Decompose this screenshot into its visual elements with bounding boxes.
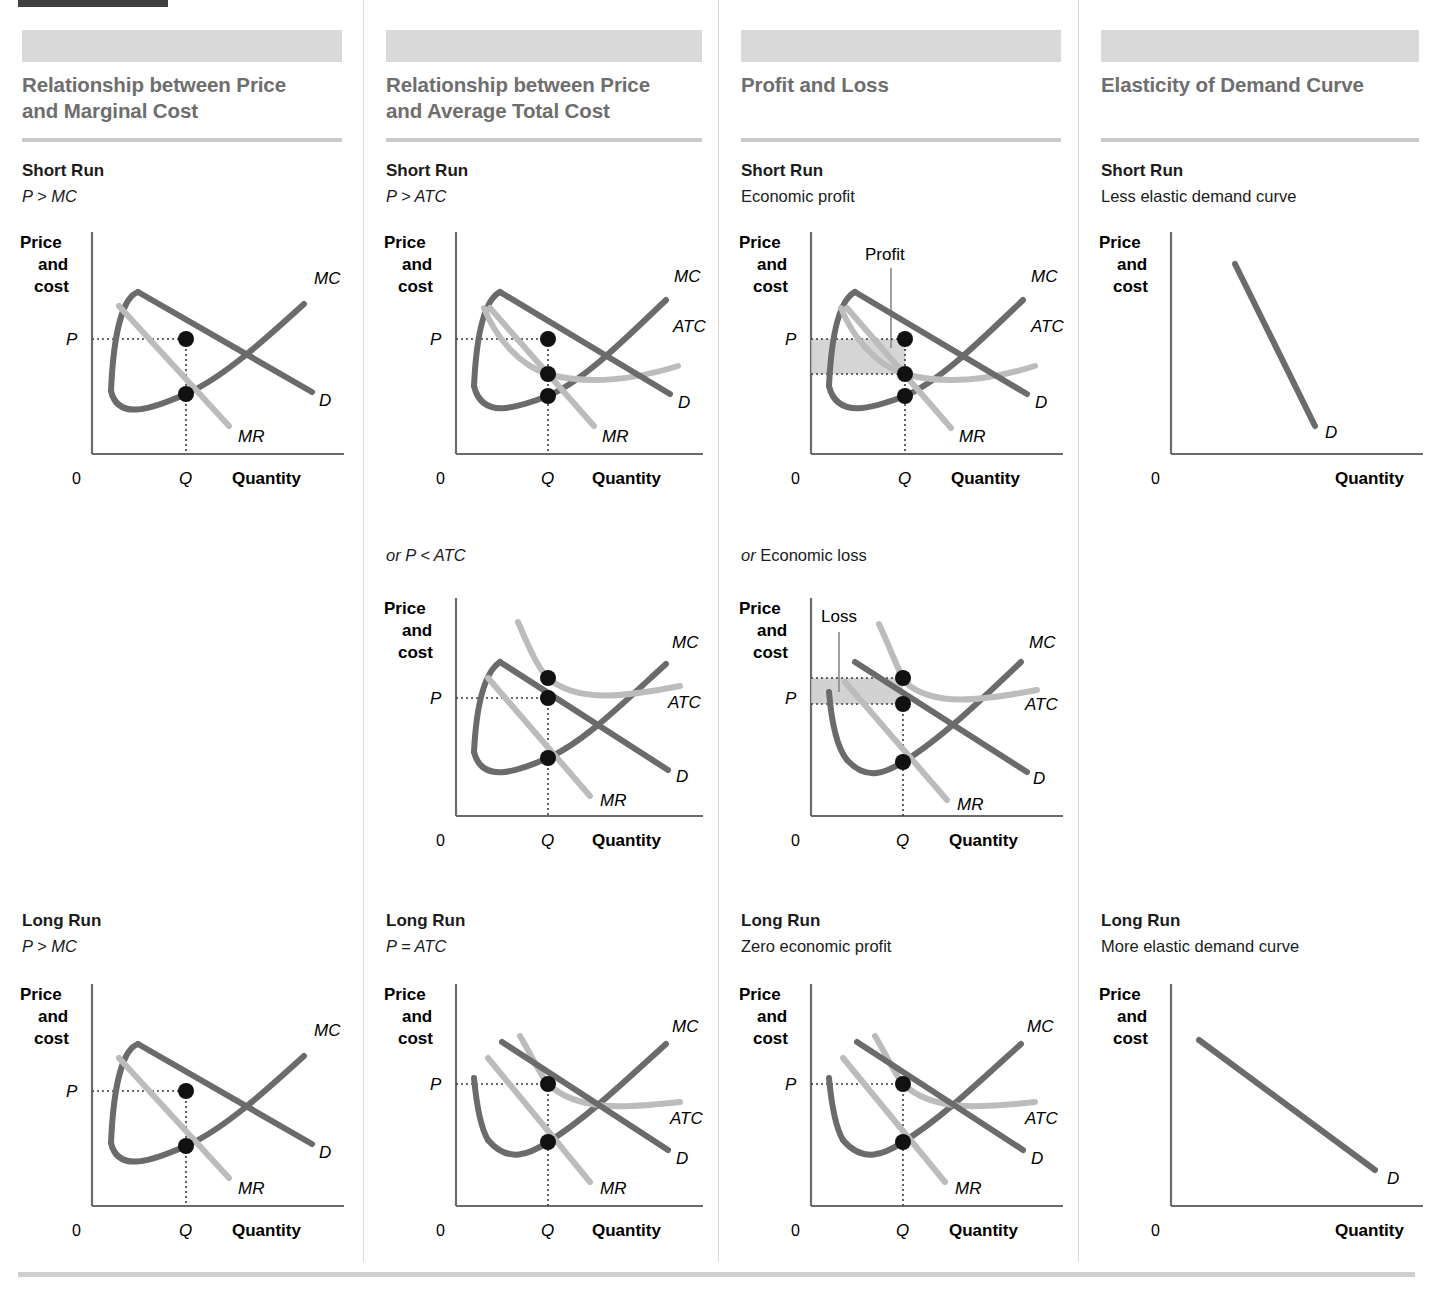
equilibrium-dot-price (178, 331, 194, 347)
equilibrium-dot-price (540, 331, 556, 347)
d-label: D (1387, 1169, 1399, 1188)
axis-ylabel-line2: and (1117, 1007, 1147, 1026)
chart-sr-atc-below: Price and cost P 0 Q Quantity MC (378, 592, 713, 857)
axis-ylabel-line3: cost (398, 643, 433, 662)
equilibrium-dot-price (895, 696, 911, 712)
axis-ylabel-line2: and (1117, 255, 1147, 274)
mc-curve (474, 300, 666, 408)
mc-label: MC (672, 633, 699, 652)
d-label: D (319, 391, 331, 410)
equilibrium-dot-price-atc (895, 1076, 911, 1092)
axis-ylabel-line2: and (757, 1007, 787, 1026)
mr-label: MR (602, 427, 628, 446)
figure-grid: Relationship between Priceand Marginal C… (0, 0, 1433, 1295)
run-title: Short Run (22, 160, 104, 183)
quantity-tick-label: Q (179, 469, 192, 488)
block-long-run: Long Run P > MC (22, 910, 101, 959)
run-note: P > MC (22, 935, 101, 959)
atc-label: ATC (667, 693, 701, 712)
chart-svg: Price and cost 0 Quantity D (1093, 978, 1433, 1248)
equilibrium-dot-price (178, 1083, 194, 1099)
column-title: Elasticity of Demand Curve (1101, 72, 1411, 98)
equilibrium-dot-mrmc (895, 1134, 911, 1150)
equilibrium-dot-atc (540, 366, 556, 382)
loss-annotation-label: Loss (821, 607, 857, 626)
mc-curve (111, 1056, 304, 1162)
mr-label: MR (955, 1179, 981, 1198)
d-label: D (1035, 393, 1047, 412)
demand-curve (138, 292, 312, 392)
axis-ylabel-line1: Price (384, 985, 426, 1004)
equilibrium-dot-price (540, 690, 556, 706)
atc-label: ATC (1030, 317, 1064, 336)
axis-ylabel-line3: cost (398, 1029, 433, 1048)
equilibrium-dot-atc (540, 670, 556, 686)
run-title: Short Run (386, 160, 468, 183)
origin-label: 0 (72, 1222, 81, 1239)
column-price-average-total-cost: Relationship between Priceand Average To… (363, 0, 718, 1262)
mr-label: MR (238, 427, 264, 446)
atc-label: ATC (672, 317, 706, 336)
equilibrium-dot-price (897, 331, 913, 347)
origin-label: 0 (791, 470, 800, 487)
atc-label: ATC (669, 1109, 703, 1128)
run-note: Zero economic profit (741, 935, 891, 959)
chart-svg: Price and cost P 0 Q Quantity MC ATC (733, 978, 1073, 1248)
equilibrium-dot-mrmc (178, 1138, 194, 1154)
equilibrium-dot-mrmc (540, 1134, 556, 1150)
axis-ylabel-line2: and (402, 621, 432, 640)
axis-xlabel: Quantity (232, 469, 301, 488)
chart-svg: Price and cost P 0 Q Quantity Loss (733, 592, 1073, 857)
d-label: D (676, 767, 688, 786)
origin-label: 0 (791, 1222, 800, 1239)
chart-svg: Price and cost P 0 Q Quantity Profit (733, 226, 1073, 496)
quantity-tick-label: Q (541, 1221, 554, 1240)
origin-label: 0 (791, 832, 800, 849)
run-note: Economic profit (741, 185, 855, 209)
or-label: or (386, 546, 401, 564)
axis-ylabel-line1: Price (384, 233, 426, 252)
price-tick-label: P (66, 330, 78, 349)
mc-label: MC (672, 1017, 699, 1036)
axis-ylabel-line1: Price (1099, 985, 1141, 1004)
axis-ylabel-line2: and (402, 255, 432, 274)
mc-curve-left (829, 1078, 843, 1140)
axis-ylabel-line1: Price (20, 233, 62, 252)
price-tick-label: P (430, 1075, 442, 1094)
d-label: D (319, 1143, 331, 1162)
run-title: Short Run (741, 160, 855, 183)
axis-ylabel-line3: cost (34, 277, 69, 296)
axis-xlabel: Quantity (1335, 469, 1404, 488)
equilibrium-dot-atc (897, 366, 913, 382)
column-header-rule (386, 138, 702, 142)
demand-curve (502, 1042, 668, 1150)
mc-curve (474, 664, 666, 772)
run-title: Long Run (1101, 910, 1299, 933)
run-note: Less elastic demand curve (1101, 185, 1296, 209)
marginal-revenue-curve (488, 678, 590, 796)
axis-xlabel: Quantity (1335, 1221, 1404, 1240)
axis-ylabel-line1: Price (20, 985, 62, 1004)
axis-ylabel-line3: cost (753, 643, 788, 662)
chart-svg: Price and cost P 0 Q Quantity MC D MR (14, 978, 354, 1248)
demand-curve (1199, 1040, 1375, 1170)
origin-label: 0 (1151, 470, 1160, 487)
chart-sr-profit: Price and cost P 0 Q Quantity Profit (733, 226, 1073, 496)
run-title: Long Run (741, 910, 891, 933)
demand-curve (500, 662, 668, 770)
chart-svg: Price and cost P 0 Q Quantity MC ATC (378, 978, 713, 1248)
profit-annotation-label: Profit (865, 245, 905, 264)
quantity-tick-label: Q (541, 469, 554, 488)
column-title: Relationship between Priceand Average To… (386, 72, 696, 124)
chart-sr-loss: Price and cost P 0 Q Quantity Loss (733, 592, 1073, 857)
mr-label: MR (959, 427, 985, 446)
axis-ylabel-line3: cost (1113, 277, 1148, 296)
chart-sr-atc-above: Price and cost P 0 Q Quantity MC (378, 226, 713, 496)
chart-svg: Price and cost 0 Quantity D (1093, 226, 1433, 496)
axis-xlabel: Quantity (949, 831, 1018, 850)
column-header-band (1101, 30, 1419, 62)
axis-ylabel-line2: and (38, 255, 68, 274)
price-tick-label: P (430, 330, 442, 349)
chart-svg: Price and cost P 0 Q Quantity MC (378, 592, 713, 857)
quantity-tick-label: Q (896, 831, 909, 850)
